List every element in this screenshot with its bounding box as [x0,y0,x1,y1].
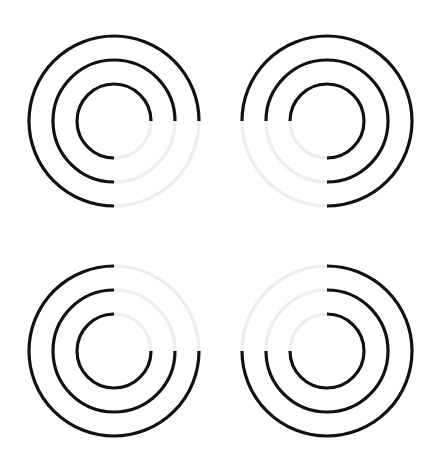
figure-bottom-right-ring-2-faint-arc [266,290,327,351]
figure-top-right-ring-2-faint-arc [266,121,327,182]
figure-bottom-right [242,266,412,436]
figure-bottom-left [29,266,199,436]
figure-bottom-right-ring-2 [266,290,388,412]
figure-top-left-ring-2 [53,60,175,182]
figure-top-right [242,36,412,206]
figure-bottom-right-ring-1-faint-arc [290,314,327,351]
figure-top-left [29,36,199,206]
figure-bottom-left-ring-2-faint-arc [114,290,175,351]
figure-canvas [0,0,443,474]
figure-top-right-ring-1-faint-arc [290,121,327,158]
figure-bottom-left-ring-1 [77,314,151,388]
figure-bottom-left-ring-1-faint-arc [114,314,151,351]
figure-top-left-ring-1 [77,84,151,158]
figure-top-left-ring-2-faint-arc [114,121,175,182]
figure-top-right-ring-1 [290,84,364,158]
figure-top-right-ring-2 [266,60,388,182]
figure-top-left-ring-1-faint-arc [114,121,151,158]
figure-bottom-right-ring-1 [290,314,364,388]
figure-bottom-left-ring-2 [53,290,175,412]
concentric-circles-diagram [0,0,443,474]
